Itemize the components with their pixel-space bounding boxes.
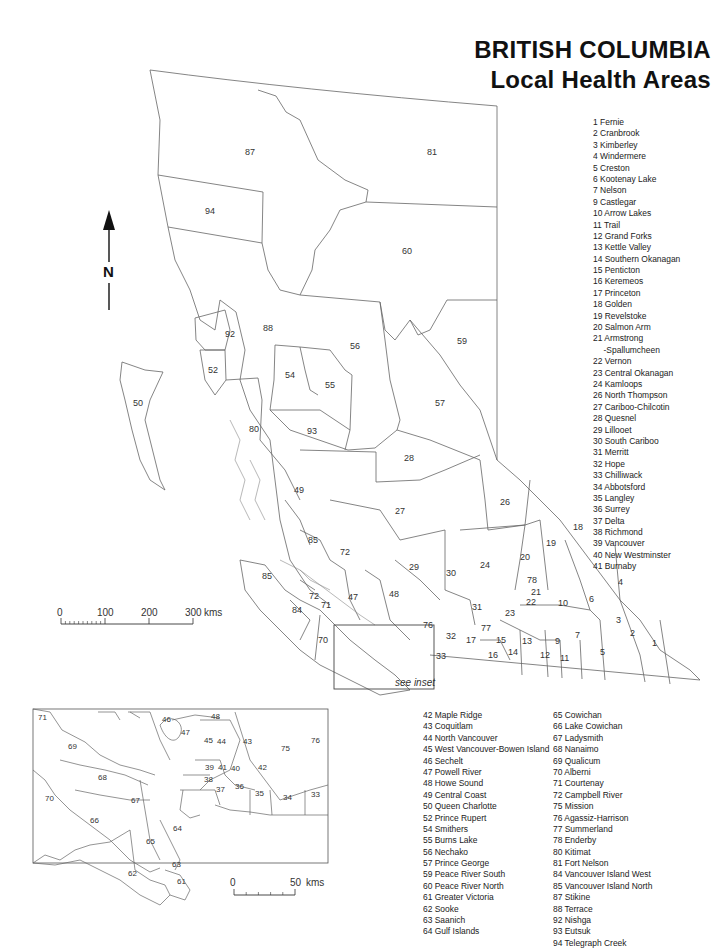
- region-label-32: 32: [446, 631, 456, 641]
- region-labels: 81 87 94 60 92 88 52 56 59 54 55 50 57 8…: [133, 147, 657, 663]
- legend-entry: 94 Telegraph Creek: [553, 937, 652, 948]
- region-label-72b: 72: [309, 591, 319, 601]
- region-label-4: 4: [618, 577, 623, 587]
- region-label-5: 5: [600, 647, 605, 657]
- legend-entry: 6 Kootenay Lake: [593, 173, 680, 184]
- legend-entry: 85 Vancouver Island North: [553, 880, 652, 891]
- svg-text:N: N: [103, 263, 114, 280]
- legend-entry: 62 Sooke: [423, 903, 549, 914]
- region-label-2: 2: [630, 628, 635, 638]
- inset-label-75: 75: [281, 744, 290, 753]
- legend-entry: 37 Delta: [593, 515, 680, 526]
- legend-entry: 30 South Cariboo: [593, 435, 680, 446]
- inset-label-48: 48: [211, 712, 220, 721]
- legend-entry: 47 Powell River: [423, 766, 549, 777]
- region-label-23: 23: [505, 608, 515, 618]
- inset-label-69: 69: [68, 742, 77, 751]
- legend-entry: 11 Trail: [593, 219, 680, 230]
- region-label-17: 17: [466, 635, 476, 645]
- region-label-94: 94: [205, 206, 215, 216]
- inset-label-39: 39: [205, 763, 214, 772]
- legend-entry: 19 Revelstoke: [593, 310, 680, 321]
- inset-scale-unit: kms: [306, 877, 324, 888]
- inset-label-70: 70: [45, 794, 54, 803]
- inset-scale-tick-50: 50: [290, 877, 302, 888]
- region-label-47: 47: [348, 592, 358, 602]
- region-label-59: 59: [457, 336, 467, 346]
- legend-entry: 40 New Westminster: [593, 549, 680, 560]
- region-label-29: 29: [409, 562, 419, 572]
- inset-map: 71 46 48 47 45 44 43 75 76 69 68 42 39 4…: [33, 709, 328, 905]
- region-label-77: 77: [481, 623, 491, 633]
- region-label-92: 92: [225, 329, 235, 339]
- legend-entry: 34 Abbotsford: [593, 481, 680, 492]
- inset-label-65: 65: [146, 837, 155, 846]
- legend-entry: 32 Hope: [593, 458, 680, 469]
- legend-entry: 93 Eutsuk: [553, 925, 652, 936]
- legend-entry: 56 Nechako: [423, 846, 549, 857]
- legend-entry: 49 Central Coast: [423, 789, 549, 800]
- legend-entry: 68 Nanaimo: [553, 743, 652, 754]
- region-label-60: 60: [402, 246, 412, 256]
- north-arrow-icon: N: [103, 210, 115, 310]
- legend-entry: 17 Princeton: [593, 287, 680, 298]
- legend-entry: 76 Agassiz-Harrison: [553, 812, 652, 823]
- legend-entry: 33 Chilliwack: [593, 469, 680, 480]
- region-label-81: 81: [427, 147, 437, 157]
- inset-label-35: 35: [255, 789, 264, 798]
- scale-tick-300: 300: [185, 607, 202, 618]
- region-label-26: 26: [500, 497, 510, 507]
- inset-label-71: 71: [38, 713, 47, 722]
- region-label-1: 1: [652, 638, 657, 648]
- inset-label-45: 45: [204, 736, 213, 745]
- legend-entry: 43 Coquitlam: [423, 720, 549, 731]
- legend-entry: 48 Howe Sound: [423, 777, 549, 788]
- legend-entry: 77 Summerland: [553, 823, 652, 834]
- legend-entry: 78 Enderby: [553, 834, 652, 845]
- region-label-28: 28: [404, 453, 414, 463]
- legend-entry: 36 Surrey: [593, 503, 680, 514]
- legend-entry: 27 Cariboo-Chilcotin: [593, 401, 680, 412]
- legend-entry: -Spallumcheen: [593, 344, 680, 355]
- region-label-48: 48: [389, 589, 399, 599]
- legend-entry: 15 Penticton: [593, 264, 680, 275]
- inset-label-44: 44: [217, 737, 226, 746]
- region-label-52: 52: [208, 365, 218, 375]
- region-label-72a: 72: [340, 547, 350, 557]
- legend-entry: 16 Keremeos: [593, 275, 680, 286]
- region-label-3: 3: [616, 615, 621, 625]
- region-label-71: 71: [321, 600, 331, 610]
- region-label-85b: 85: [262, 571, 272, 581]
- legend-entry: 50 Queen Charlotte: [423, 800, 549, 811]
- legend-entry: 67 Ladysmith: [553, 732, 652, 743]
- inset-label-42: 42: [258, 763, 267, 772]
- legend-entry: 24 Kamloops: [593, 378, 680, 389]
- legend-entry: 28 Quesnel: [593, 412, 680, 423]
- legend-entry: 55 Burns Lake: [423, 834, 549, 845]
- inset-scale-tick-0: 0: [230, 877, 236, 888]
- region-label-11: 11: [560, 653, 569, 663]
- scale-unit: kms: [204, 607, 222, 618]
- legend-entry: 22 Vernon: [593, 355, 680, 366]
- legend-entry: 20 Salmon Arm: [593, 321, 680, 332]
- legend-entry: 92 Nishga: [553, 914, 652, 925]
- inset-label-64: 64: [173, 824, 182, 833]
- legend-entry: 26 North Thompson: [593, 389, 680, 400]
- inset-label-37: 37: [216, 785, 225, 794]
- legend-entry: 57 Prince George: [423, 857, 549, 868]
- region-label-10: 10: [558, 598, 568, 608]
- region-label-31: 31: [472, 602, 482, 612]
- legend-entry: 70 Alberni: [553, 766, 652, 777]
- region-label-14: 14: [508, 647, 518, 657]
- region-label-21: 21: [531, 587, 541, 597]
- legend-entry: 44 North Vancouver: [423, 732, 549, 743]
- region-label-7: 7: [575, 630, 580, 640]
- legend-entry: 54 Smithers: [423, 823, 549, 834]
- legend-entry: 39 Vancouver: [593, 537, 680, 548]
- legend-entry: 2 Cranbrook: [593, 127, 680, 138]
- legend-entry: 72 Campbell River: [553, 789, 652, 800]
- legend-entry: 75 Mission: [553, 800, 652, 811]
- region-label-24: 24: [480, 560, 490, 570]
- legend-entry: 84 Vancouver Island West: [553, 868, 652, 879]
- legend-entry: 14 Southern Okanagan: [593, 253, 680, 264]
